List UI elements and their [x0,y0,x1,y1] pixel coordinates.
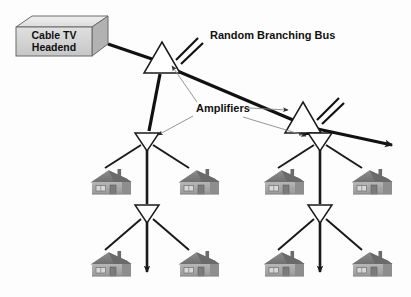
amplifier-symbols [135,42,332,223]
house-icon [91,251,132,277]
house-icon [264,251,305,277]
house-icon [179,251,220,277]
house-icon [179,169,220,195]
cable-tv-headend-box: Cable TV Headend [16,16,108,56]
leader-to-amp1 [172,66,197,102]
amplifier-icon [135,133,159,151]
left-bot-drop-left [105,219,141,250]
left-mid-drop-left [105,145,141,168]
amp1-stub-b [181,43,203,64]
headend-label-line2: Headend [32,41,76,53]
trunk-bus-lines [108,44,392,145]
amp2-stub-b [322,103,344,124]
amp1-stub-a [176,38,198,60]
right-bot-drop-right [326,219,362,250]
amplifiers-callout-label: Amplifiers [196,102,250,114]
house-icon [91,169,132,195]
right-bot-drop-left [278,219,314,250]
house-icon [264,169,305,195]
left-mid-drop-right [153,145,189,168]
leader-to-left-amp [158,116,193,135]
amplifier-callout-leaders [158,66,306,136]
diagram-title: Random Branching Bus [210,29,335,41]
amplifier-icon [308,133,332,151]
bus-segment-amp1-to-left-branch [149,74,160,131]
amp2-stub-a [317,98,339,120]
left-bot-drop-right [153,219,189,250]
bus-segment-headend-to-amp1 [108,44,152,59]
house-icon [352,169,393,195]
right-mid-drop-left [278,145,314,168]
right-mid-drop-right [326,145,362,168]
house-icon [352,251,393,277]
headend-label-line1: Cable TV [32,29,77,41]
topology-diagram: Cable TV Headend Random Branching Bus Am… [0,0,411,297]
diagram-canvas: Cable TV Headend Random Branching Bus Am… [0,0,411,297]
